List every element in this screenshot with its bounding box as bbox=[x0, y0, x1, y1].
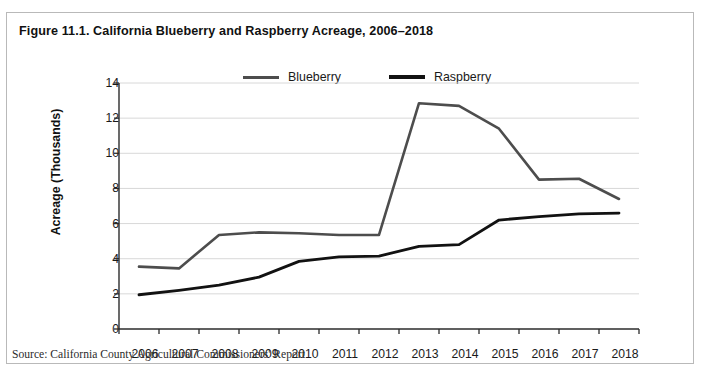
x-axis-tickmarks bbox=[119, 329, 639, 334]
line-chart-plot bbox=[7, 13, 695, 365]
series-line-raspberry bbox=[139, 213, 619, 295]
y-axis-tickmarks bbox=[114, 83, 119, 329]
series-line-blueberry bbox=[139, 103, 619, 268]
chart-gridlines bbox=[119, 83, 639, 294]
figure-frame: Figure 11.1. California Blueberry and Ra… bbox=[6, 12, 694, 364]
chart-series-lines bbox=[139, 103, 619, 295]
source-note: Source: California County Agricultural C… bbox=[12, 348, 305, 361]
